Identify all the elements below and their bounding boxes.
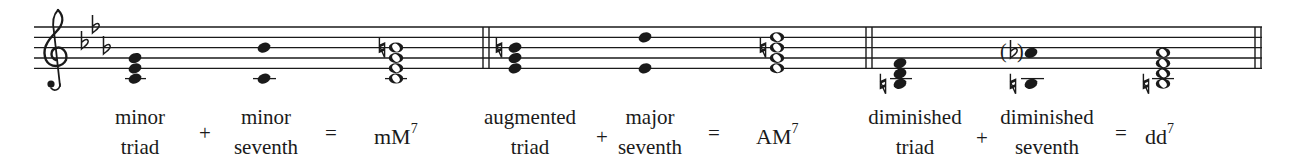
label-line1: major [612, 102, 688, 132]
label-diminished-triad: diminished triad [858, 102, 972, 162]
label-augmented-triad: augmented triad [474, 102, 586, 162]
label-line2: seventh [990, 132, 1104, 162]
result-base: dd [1145, 124, 1167, 149]
chord-AM7 [760, 32, 784, 74]
equals-sign: = [708, 118, 720, 148]
label-line2: triad [474, 132, 586, 162]
label-line1: diminished [990, 102, 1104, 132]
result-dd7: dd7 [1145, 117, 1174, 152]
label-major-seventh: major seventh [612, 102, 688, 162]
music-staff: ( ) [0, 0, 1291, 100]
chord-dd7 [1143, 47, 1174, 93]
chord-mM7 [379, 38, 407, 84]
result-superscript: 7 [1167, 121, 1174, 136]
plus-sign: + [596, 122, 608, 152]
label-line1: augmented [474, 102, 586, 132]
label-line2: seventh [228, 132, 304, 162]
label-line1: diminished [858, 102, 972, 132]
result-AM7: AM7 [756, 117, 798, 152]
chord-diminished-triad [880, 56, 912, 94]
label-minor-seventh: minor seventh [228, 102, 304, 162]
result-base: mM [374, 124, 411, 149]
label-line1: minor [228, 102, 304, 132]
label-line2: triad [858, 132, 972, 162]
svg-text:(: ( [1000, 40, 1007, 63]
label-line1: minor [104, 102, 176, 132]
equals-sign: = [325, 118, 337, 148]
label-line2: seventh [612, 132, 688, 162]
result-superscript: 7 [411, 121, 418, 136]
result-mM7: mM7 [374, 117, 418, 152]
treble-clef-icon [44, 10, 66, 90]
chord-augmented-triad [496, 38, 523, 76]
equals-sign: = [1115, 118, 1127, 148]
plus-sign: + [976, 123, 988, 153]
label-diminished-seventh: diminished seventh [990, 102, 1104, 162]
label-minor-triad: minor triad [104, 102, 176, 162]
result-base: AM [756, 124, 791, 149]
result-superscript: 7 [791, 121, 798, 136]
plus-sign: + [199, 118, 211, 148]
interval-major-seventh [637, 30, 653, 75]
svg-text:): ) [1017, 40, 1024, 63]
label-line2: triad [104, 132, 176, 162]
